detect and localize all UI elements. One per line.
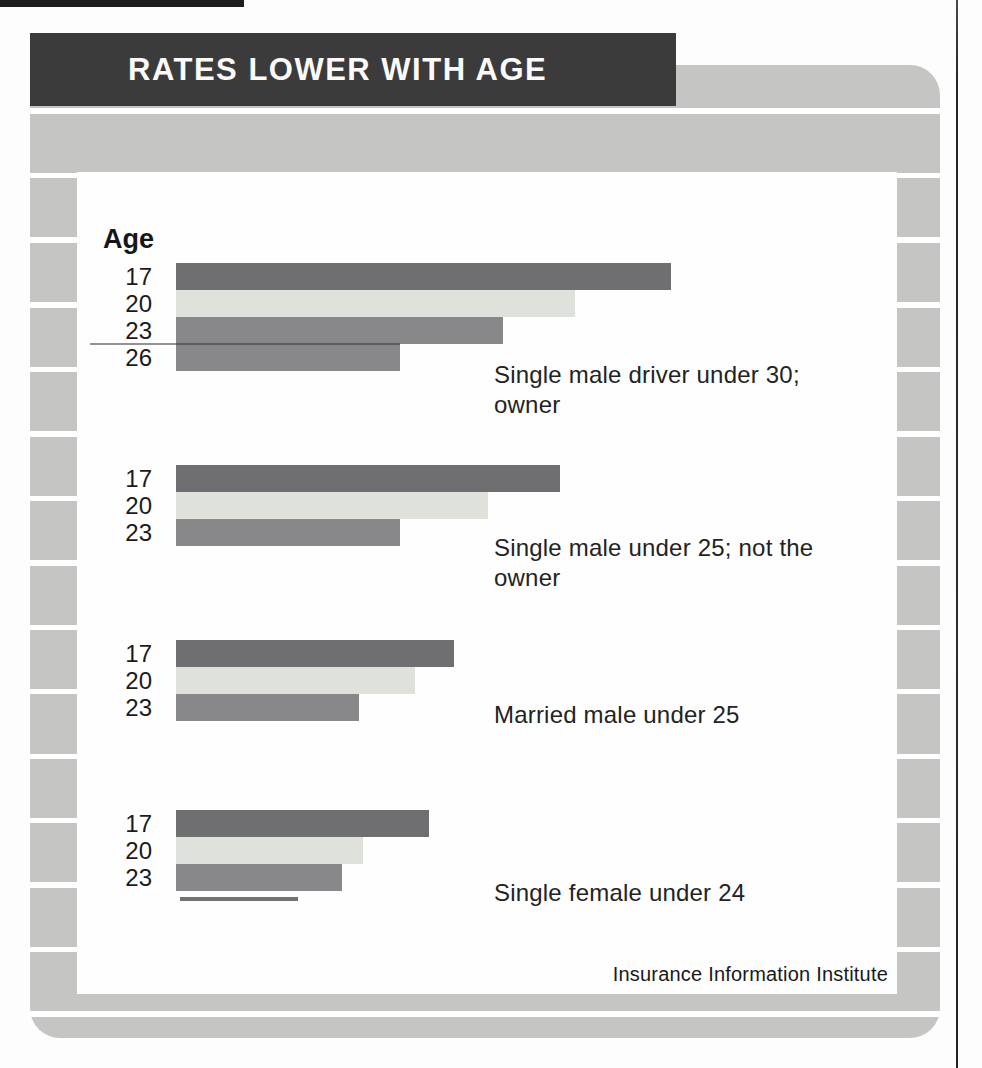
age-tick-label: 17	[100, 810, 152, 837]
rate-bar-age-20	[176, 290, 575, 317]
rate-bar-age-26	[176, 344, 400, 371]
group-caption-line: Single male under 25; not the	[494, 533, 813, 563]
age-tick-label: 20	[100, 492, 152, 519]
age-tick-label: 20	[100, 290, 152, 317]
bar-row: 20	[100, 667, 454, 694]
age-tick-label: 20	[100, 667, 152, 694]
group-caption-line: Single male driver under 30;	[494, 360, 800, 390]
bar-group-1: 17202326	[100, 263, 671, 371]
age-tick-label: 17	[100, 465, 152, 492]
rate-bar-age-23	[176, 519, 400, 546]
rate-bar-age-20	[176, 492, 488, 519]
bar-row: 17	[100, 640, 454, 667]
bar-row: 20	[100, 492, 560, 519]
rate-bar-age-17	[176, 810, 429, 837]
scan-artifact-line	[90, 343, 400, 345]
group-caption: Married male under 25	[494, 700, 740, 730]
rate-bar-age-17	[176, 465, 560, 492]
bar-group-4: 172023	[100, 810, 429, 891]
rate-bar-age-23	[176, 694, 359, 721]
bar-row: 23	[100, 519, 560, 546]
age-tick-label: 17	[100, 263, 152, 290]
group-caption-line: owner	[494, 563, 813, 593]
bar-row: 20	[100, 837, 429, 864]
scanned-chart-page: RATES LOWER WITH AGE Age 172023261720231…	[0, 0, 982, 1068]
bar-row: 17	[100, 810, 429, 837]
age-tick-label: 20	[100, 837, 152, 864]
bar-row: 20	[100, 290, 671, 317]
group-caption-line: Single female under 24	[494, 878, 745, 908]
source-attribution: Insurance Information Institute	[613, 963, 888, 986]
bar-row: 17	[100, 465, 560, 492]
page-top-rule	[0, 0, 244, 7]
page-edge-line	[956, 0, 958, 1068]
chart-title: RATES LOWER WITH AGE	[30, 52, 547, 88]
group-caption: Single female under 24	[494, 878, 745, 908]
bar-row: 17	[100, 263, 671, 290]
rate-bar-age-23	[176, 864, 342, 891]
rate-bar-age-20	[176, 667, 415, 694]
age-tick-label: 26	[100, 344, 152, 371]
rate-bar-age-20	[176, 837, 363, 864]
group-caption: Single male under 25; not theowner	[494, 533, 813, 593]
age-tick-label: 23	[100, 694, 152, 721]
title-banner: RATES LOWER WITH AGE	[30, 33, 676, 106]
rate-bar-age-17	[176, 640, 454, 667]
age-tick-label: 23	[100, 317, 152, 344]
age-tick-label: 23	[100, 519, 152, 546]
age-axis-label: Age	[103, 224, 154, 255]
bar-row: 23	[100, 317, 671, 344]
rate-bar-age-17	[176, 263, 671, 290]
rate-bar-age-23	[176, 317, 503, 344]
group-caption: Single male driver under 30;owner	[494, 360, 800, 420]
bar-group-3: 172023	[100, 640, 454, 721]
bar-row: 23	[100, 694, 454, 721]
bar-row: 23	[100, 864, 429, 891]
age-tick-label: 23	[100, 864, 152, 891]
group-caption-line: Married male under 25	[494, 700, 740, 730]
age-tick-label: 17	[100, 640, 152, 667]
bar-group-2: 172023	[100, 465, 560, 546]
scan-artifact-line	[180, 897, 298, 901]
group-caption-line: owner	[494, 390, 800, 420]
